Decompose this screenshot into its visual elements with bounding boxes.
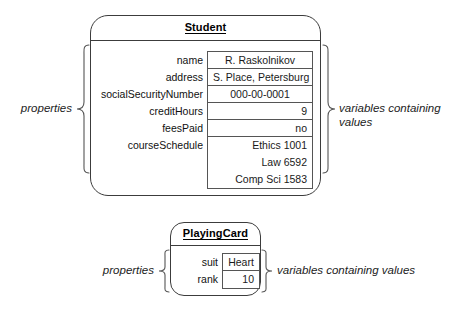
playingcard-variables-brace xyxy=(261,249,273,293)
object-title-playingcard: PlayingCard xyxy=(170,227,261,239)
playingcard-properties-brace xyxy=(158,249,170,293)
student-properties-brace xyxy=(76,44,90,174)
student-title-divider xyxy=(91,40,320,41)
playingcard-value-table: Heart 10 xyxy=(222,253,260,289)
value-cell-rank: 10 xyxy=(223,271,259,288)
student-property-labels: name address socialSecurityNumber credit… xyxy=(92,52,203,154)
student-annotation-properties: properties xyxy=(6,102,72,116)
property-label-socialsecuritynumber: socialSecurityNumber xyxy=(92,86,203,103)
object-title-student-text: Student xyxy=(185,21,227,34)
value-cell-courseschedule-item-0: Ethics 1001 xyxy=(208,137,312,154)
student-value-table: R. Raskolnikov S. Place, Petersburg 000-… xyxy=(207,51,313,189)
property-label-address: address xyxy=(92,69,203,86)
playingcard-property-labels: suit rank xyxy=(172,254,218,288)
property-label-name: name xyxy=(92,52,203,69)
value-cell-address: S. Place, Petersburg xyxy=(208,69,312,86)
object-title-playingcard-text: PlayingCard xyxy=(183,227,248,240)
property-label-rank: rank xyxy=(172,271,218,288)
value-cell-suit: Heart xyxy=(223,254,259,271)
value-cell-credithours: 9 xyxy=(208,103,312,120)
value-cell-courseschedule: Ethics 1001 Law 6592 Comp Sci 1583 xyxy=(208,137,312,188)
object-title-student: Student xyxy=(90,21,321,33)
property-label-courseschedule: courseSchedule xyxy=(92,137,203,154)
playingcard-annotation-variables: variables containing values xyxy=(277,264,463,278)
value-cell-courseschedule-item-1: Law 6592 xyxy=(208,154,312,171)
playingcard-annotation-properties: properties xyxy=(88,264,154,278)
value-cell-courseschedule-item-2: Comp Sci 1583 xyxy=(208,171,312,188)
property-label-credithours: creditHours xyxy=(92,103,203,120)
playingcard-title-divider xyxy=(171,245,260,246)
value-cell-feespaid: no xyxy=(208,120,312,137)
diagram-canvas: Student name address socialSecurityNumbe… xyxy=(0,0,467,312)
student-annotation-variables: variables containing values xyxy=(339,102,463,129)
property-label-feespaid: feesPaid xyxy=(92,120,203,137)
student-variables-brace xyxy=(322,44,336,174)
value-cell-socialsecuritynumber: 000-00-0001 xyxy=(208,86,312,103)
property-label-suit: suit xyxy=(172,254,218,271)
value-cell-name: R. Raskolnikov xyxy=(208,52,312,69)
